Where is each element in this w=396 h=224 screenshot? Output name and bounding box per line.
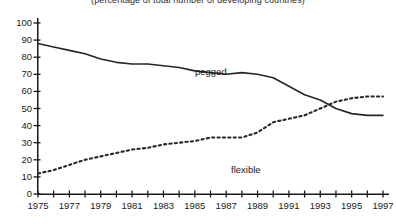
y-axis-tick-label: 20 (4, 155, 32, 165)
y-axis-tick-label: 0 (4, 189, 32, 199)
y-axis-tick-label: 50 (4, 104, 32, 114)
x-axis-tick-label: 1985 (178, 200, 212, 211)
axis-lines (37, 18, 389, 195)
y-axis-tick-label: 80 (4, 52, 32, 62)
y-axis-tick-label: 70 (4, 69, 32, 79)
plot-area: pegged flexible (37, 22, 389, 195)
x-axis-tick-label: 1993 (303, 200, 337, 211)
series-line-flexible (38, 97, 383, 174)
y-axis-tick-label: 100 (4, 18, 32, 28)
x-axis-tick-label: 1979 (84, 200, 118, 211)
x-axis-tick-label: 1981 (115, 200, 149, 211)
x-axis-tick-label: 1983 (146, 200, 180, 211)
y-axis-tick-label: 10 (4, 172, 32, 182)
x-axis-tick-label: 1977 (52, 200, 86, 211)
y-axis-tick-label: 90 (4, 35, 32, 45)
x-axis-tick-labels: 1975197719791981198319851987198919911993… (37, 200, 389, 214)
x-axis-tick-label: 1975 (21, 200, 55, 211)
y-axis-tick-label: 30 (4, 138, 32, 148)
x-axis-tick-label: 1997 (366, 200, 396, 211)
series-annotation-flexible: flexible (231, 164, 261, 175)
chart-container: (percentage of total number of developin… (0, 0, 396, 224)
x-axis-tick-label: 1991 (272, 200, 306, 211)
x-axis-tick-label: 1987 (209, 200, 243, 211)
x-axis-tick-label: 1995 (335, 200, 369, 211)
x-axis-tick-label: 1989 (241, 200, 275, 211)
chart-subtitle: (percentage of total number of developin… (0, 0, 396, 5)
y-axis-tick-label: 60 (4, 86, 32, 96)
plot-svg (37, 22, 389, 195)
y-axis-tick-label: 40 (4, 121, 32, 131)
y-axis-tick-labels: 1009080706050403020100 (0, 22, 32, 195)
series-annotation-pegged: pegged (195, 66, 227, 77)
